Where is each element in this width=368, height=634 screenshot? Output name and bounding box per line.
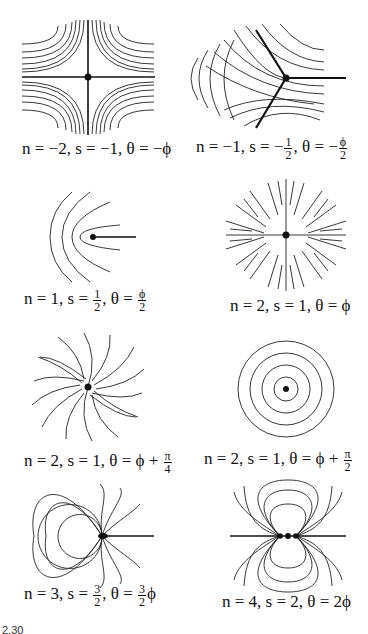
caption-s-prefix: s = bbox=[68, 289, 93, 308]
defect-core-dot bbox=[85, 74, 92, 81]
caption-theta-suffix: ϕ bbox=[147, 584, 156, 603]
caption-n: n = 3, bbox=[24, 584, 68, 603]
fraction-denominator: 2 bbox=[93, 596, 101, 608]
caption-text: n = 4, s = 2, θ = 2ϕ bbox=[222, 592, 351, 611]
caption-p5: n = 2, s = 1, θ = ϕ + π4 bbox=[24, 450, 173, 475]
panel-n-minus1: n = −1, s = −12, θ = −ϕ2 bbox=[184, 0, 368, 160]
caption-p3: n = 1, s = 12, θ = ϕ2 bbox=[24, 288, 147, 313]
panel-n-2-spiral: n = 2, s = 1, θ = ϕ + π4 bbox=[0, 330, 184, 480]
defect-core-dot bbox=[285, 533, 291, 539]
fraction-denominator: 4 bbox=[164, 463, 172, 475]
fraction-denominator: 2 bbox=[344, 461, 352, 473]
caption-p8: n = 4, s = 2, θ = 2ϕ bbox=[222, 593, 351, 610]
panel-n-minus2: n = −2, s = −1, θ = −ϕ bbox=[0, 0, 184, 160]
caption-n: n = −1, bbox=[196, 137, 249, 156]
defect-core-dot bbox=[90, 234, 96, 240]
fraction-s: 32 bbox=[93, 583, 101, 608]
caption-theta-prefix: , θ = − bbox=[293, 137, 337, 156]
caption-prefix: n = 2, s = 1, θ = ϕ + bbox=[24, 451, 163, 470]
caption-s: s = −1, bbox=[75, 139, 126, 158]
caption-p4: n = 2, s = 1, θ = ϕ bbox=[230, 297, 350, 314]
panel-n-2-radial: n = 2, s = 1, θ = ϕ bbox=[184, 160, 368, 320]
caption-theta-prefix: , θ = bbox=[102, 584, 137, 603]
caption-s-prefix: s = − bbox=[249, 137, 283, 156]
defect-core-dot bbox=[283, 232, 290, 239]
panel-n-1: n = 1, s = 12, θ = ϕ2 bbox=[0, 160, 184, 320]
caption-p6: n = 2, s = 1, θ = ϕ + π2 bbox=[204, 448, 353, 473]
defect-diagram-n-3 bbox=[0, 480, 184, 634]
panel-n-4: n = 4, s = 2, θ = 2ϕ bbox=[184, 480, 368, 634]
caption-prefix: n = 2, s = 1, θ = ϕ + bbox=[204, 449, 343, 468]
defect-core-dot bbox=[283, 386, 289, 392]
caption-theta: θ = −ϕ bbox=[126, 139, 171, 158]
fraction-theta: π2 bbox=[344, 448, 352, 473]
caption-theta-prefix: , θ = bbox=[102, 289, 137, 308]
caption-n: n = 1, bbox=[24, 289, 68, 308]
panel-n-3: n = 3, s = 32, θ = 32ϕ bbox=[0, 480, 184, 634]
defect-core-dot bbox=[85, 384, 92, 391]
fraction-denominator: 2 bbox=[93, 301, 101, 313]
fraction-denominator: 2 bbox=[138, 301, 146, 313]
fraction-theta: 32 bbox=[138, 583, 146, 608]
caption-s-prefix: s = bbox=[68, 584, 93, 603]
caption-p2: n = −1, s = −12, θ = −ϕ2 bbox=[196, 136, 348, 161]
panel-n-2-circular: n = 2, s = 1, θ = ϕ + π2 bbox=[184, 330, 368, 480]
defect-core-dot-right bbox=[293, 533, 299, 539]
fraction-theta: ϕ2 bbox=[138, 288, 146, 313]
defect-core-dot bbox=[283, 75, 290, 82]
fraction-theta: π4 bbox=[164, 450, 172, 475]
caption-p1: n = −2, s = −1, θ = −ϕ bbox=[22, 140, 171, 157]
defect-core-dot bbox=[98, 533, 108, 539]
fraction-denominator: 2 bbox=[138, 596, 146, 608]
caption-n: n = −2, bbox=[22, 139, 75, 158]
fraction-s: 12 bbox=[93, 288, 101, 313]
figure-label-fragment: 2.30 bbox=[2, 624, 23, 634]
defect-core-dot-left bbox=[277, 533, 283, 539]
fraction-s: 12 bbox=[284, 136, 292, 161]
fraction-theta: ϕ2 bbox=[339, 136, 347, 161]
caption-p7: n = 3, s = 32, θ = 32ϕ bbox=[24, 583, 156, 608]
defect-diagram-n-minus2 bbox=[0, 0, 184, 160]
caption-text: n = 2, s = 1, θ = ϕ bbox=[230, 296, 350, 315]
